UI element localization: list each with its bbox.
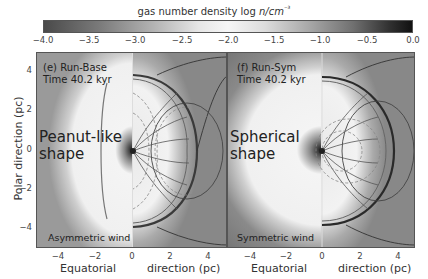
run-label-e: (e) Run-Base Time 40.2 kyr	[43, 62, 112, 86]
colorbar-tick: −0.5	[357, 35, 378, 45]
colorbar-title-exp: ⁻³	[284, 5, 291, 13]
shape-line-1: Peanut-like	[39, 129, 122, 146]
y-tick: −4	[18, 222, 32, 232]
colorbar-tick: −3.5	[79, 35, 100, 45]
colorbar-title: gas number density log n/cm⁻³	[0, 5, 428, 17]
run-name: (e) Run-Base	[43, 62, 112, 74]
run-time: Time 40.2 kyr	[43, 74, 112, 86]
colorbar-tick: −2.5	[172, 35, 193, 45]
colorbar-tick: −4.0	[33, 35, 54, 45]
y-tick: 4	[18, 65, 32, 75]
x-axis-label-right-f: direction (pc)	[338, 262, 411, 275]
shape-line-2: shape	[39, 146, 122, 163]
panel-run-sym: (f) Run-Sym Time 40.2 kyr Spherical shap…	[227, 52, 415, 248]
run-name: (f) Run-Sym	[237, 62, 306, 74]
y-tick: −2	[18, 183, 32, 193]
x-axis-label-left-f: Equatorial	[251, 262, 307, 275]
shape-annotation-f: Spherical shape	[230, 129, 300, 163]
wind-label-f: Symmetric wind	[237, 232, 314, 243]
run-time: Time 40.2 kyr	[237, 74, 306, 86]
x-tick: 4	[395, 251, 400, 261]
y-tick: 2	[18, 104, 32, 114]
colorbar-title-prefix: gas number density log	[138, 6, 259, 17]
x-tick: 0	[319, 251, 324, 261]
colorbar-tick: −1.0	[310, 35, 331, 45]
run-label-f: (f) Run-Sym Time 40.2 kyr	[237, 62, 306, 86]
colorbar-title-var: n/cm	[259, 6, 284, 17]
x-axis-label-right-e: direction (pc)	[147, 262, 220, 275]
colorbar-tick: −1.5	[264, 35, 285, 45]
shape-line-1: Spherical	[230, 129, 300, 146]
x-tick: −4	[52, 251, 65, 261]
x-tick: 4	[205, 251, 210, 261]
x-axis-label-left-e: Equatorial	[60, 262, 116, 275]
panel-run-base: (e) Run-Base Time 40.2 kyr Peanut-like s…	[36, 52, 227, 248]
colorbar-tick: −2.0	[218, 35, 239, 45]
wind-label-e: Asymmetric wind	[48, 232, 130, 243]
colorbar-tick: 0.0	[406, 35, 420, 45]
x-tick: −2	[89, 251, 102, 261]
x-tick: 2	[167, 251, 172, 261]
shape-line-2: shape	[230, 146, 300, 163]
x-tick: −2	[280, 251, 293, 261]
y-tick: 0	[18, 144, 32, 154]
x-tick: 0	[129, 251, 134, 261]
shape-annotation-e: Peanut-like shape	[39, 129, 122, 163]
x-tick: 2	[357, 251, 362, 261]
x-tick: −4	[244, 251, 257, 261]
colorbar-tick: −3.0	[125, 35, 146, 45]
colorbar	[43, 20, 413, 33]
